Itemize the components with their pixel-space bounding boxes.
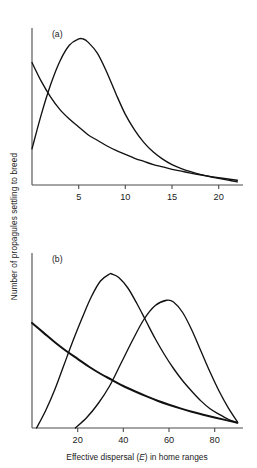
x-axis-label: Effective dispersal (E) in home ranges [66,452,207,462]
panel-a-plot: 5 10 15 20 (a) [18,0,257,225]
panel-a-x-ticklabels: 5 10 15 20 [76,192,224,202]
panel-b-ticklabel-0: 20 [73,435,83,445]
panel-b-x-ticks [78,428,215,432]
panel-a-x-ticks [79,185,219,189]
panel-b-plot: 20 40 60 80 (b) Effective dispersal (E) … [18,225,257,468]
panel-b-label: (b) [52,254,63,264]
panel-a-ticklabel-2: 15 [167,192,177,202]
panel-a-curve-humped [32,38,237,181]
panel-a-curve-monotonic-decline [32,63,237,181]
panel-b-ticklabel-2: 60 [164,435,174,445]
x-axis-label-suffix: ) in home ranges [145,452,208,462]
panel-b-curve-late-hump [75,300,237,428]
panel-b-x-ticklabels: 20 40 60 80 [73,435,220,445]
panel-a-axes [32,28,243,185]
panel-a-label: (a) [52,29,63,39]
panel-a-ticklabel-3: 20 [214,192,224,202]
panel-b-ticklabel-3: 80 [210,435,220,445]
panel-b-curve-monotonic-decline [32,323,237,423]
y-axis-label-wrapper: Number of propagules settling to breed [0,0,20,468]
panel-a: 5 10 15 20 (a) [18,0,257,225]
panel-b-axes [32,253,243,428]
panel-b: 20 40 60 80 (b) Effective dispersal (E) … [18,225,257,468]
panel-a-ticklabel-0: 5 [76,192,81,202]
x-axis-label-prefix: Effective dispersal ( [66,452,139,462]
figure-container: Number of propagules settling to breed 5… [0,0,257,468]
panel-a-ticklabel-1: 10 [120,192,130,202]
panel-b-ticklabel-1: 40 [118,435,128,445]
